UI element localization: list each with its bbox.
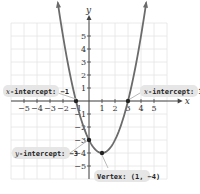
key-point [126,99,130,103]
x-tick-label: 5 [151,104,156,113]
svg-text:x-intercept: −1: x-intercept: −1 [6,88,69,96]
x-axis-label: x [185,96,190,106]
key-point [100,151,104,155]
callout-x-intercept-right: x-intercept: 3 [130,85,200,99]
x-tick-label: 2 [112,104,117,113]
x-tick-label: −4 [31,104,43,113]
svg-text:Vertex: (1, −4): Vertex: (1, −4) [97,173,160,181]
key-point [87,138,91,142]
svg-text:x-intercept: 3: x-intercept: 3 [144,88,200,96]
callout-x-intercept-left: x-intercept: −1 [3,85,76,99]
y-tick-label: 1 [81,84,86,93]
x-tick-label: −2 [57,104,69,113]
y-tick-label: 3 [81,58,86,67]
x-tick-label: 4 [138,104,143,113]
key-point [74,99,78,103]
svg-text:y-intercept: −3: y-intercept: −3 [14,150,78,158]
y-tick-label: −5 [74,162,86,171]
x-tick-label: 1 [99,104,104,113]
y-tick-label: 5 [81,32,86,41]
y-tick-label: 4 [81,45,86,54]
x-tick-label: −5 [18,104,30,113]
callout-vertex: Vertex: (1, −4) [94,155,160,182]
x-tick-label: −3 [44,104,56,113]
y-tick-label: −3 [74,136,86,145]
y-axis-label: y [85,5,92,15]
parabola-graph: x y −5−4−3−2−11234554321−1−2−3−4−5 x-int… [0,0,200,194]
y-tick-label: 2 [81,71,86,80]
